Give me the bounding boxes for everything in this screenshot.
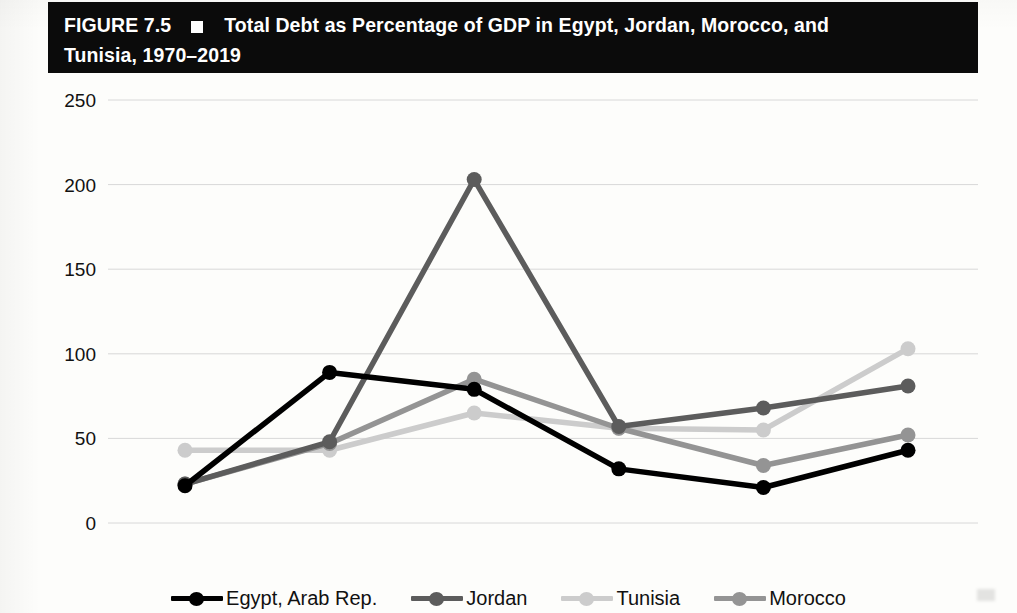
data-point-marker	[178, 443, 193, 458]
scan-smudge-artifact	[977, 589, 995, 601]
legend-item-label: Morocco	[769, 587, 846, 610]
y-axis-tick-label: 100	[64, 344, 96, 365]
chart-plot-area: 050100150200250 197019801990200020102019	[0, 73, 1017, 533]
data-series-group	[178, 172, 916, 495]
y-axis-tick-label: 0	[85, 513, 96, 533]
legend-item[interactable]: Jordan	[411, 587, 527, 610]
legend-item-label: Egypt, Arab Rep.	[226, 587, 377, 610]
data-point-marker	[467, 382, 482, 397]
legend-marker-dot	[579, 592, 594, 606]
legend-swatch-icon	[561, 590, 613, 606]
figure-title-line-2: Tunisia, 1970–2019	[64, 40, 964, 70]
legend-item-label: Jordan	[466, 587, 527, 610]
legend-marker-dot	[189, 592, 204, 606]
data-point-marker	[901, 378, 916, 393]
gridlines-group	[108, 100, 978, 523]
y-axis-tick-label: 150	[64, 259, 96, 280]
legend-item-label: Tunisia	[616, 587, 680, 610]
data-point-marker	[611, 461, 626, 476]
legend-item[interactable]: Egypt, Arab Rep.	[171, 587, 377, 610]
y-axis-tick-label: 250	[64, 90, 96, 111]
data-point-marker	[467, 172, 482, 187]
legend-item[interactable]: Tunisia	[561, 587, 680, 610]
figure-title-text-part-2: Tunisia, 1970–2019	[64, 44, 241, 66]
y-axis-tick-label: 200	[64, 175, 96, 196]
data-point-marker	[756, 400, 771, 415]
figure-number-label: FIGURE 7.5	[64, 14, 171, 36]
data-point-marker	[322, 365, 337, 380]
series-line-egypt-arab-rep	[185, 372, 908, 487]
line-chart-svg: 050100150200250 197019801990200020102019	[0, 73, 1017, 533]
legend-marker-dot	[732, 592, 747, 606]
white-square-bullet-icon	[191, 21, 203, 33]
chart-legend: Egypt, Arab Rep.JordanTunisiaMorocco	[0, 583, 1017, 613]
legend-swatch-icon	[714, 590, 766, 606]
y-axis-tick-labels: 050100150200250	[64, 90, 96, 533]
data-point-marker	[756, 422, 771, 437]
data-point-marker	[178, 478, 193, 493]
figure-title-bar: FIGURE 7.5 Total Debt as Percentage of G…	[48, 2, 978, 73]
data-point-marker	[901, 428, 916, 443]
data-point-marker	[901, 443, 916, 458]
data-point-marker	[467, 406, 482, 421]
data-point-marker	[756, 480, 771, 495]
legend-swatch-icon	[411, 590, 463, 606]
figure-title-line-1: FIGURE 7.5 Total Debt as Percentage of G…	[64, 10, 964, 40]
data-point-marker	[611, 419, 626, 434]
legend-marker-dot	[429, 592, 444, 606]
figure-title-text-part-1: Total Debt as Percentage of GDP in Egypt…	[224, 14, 829, 36]
legend-item[interactable]: Morocco	[714, 587, 846, 610]
data-point-marker	[756, 458, 771, 473]
y-axis-tick-label: 50	[75, 428, 96, 449]
data-point-marker	[322, 434, 337, 449]
data-point-marker	[901, 341, 916, 356]
legend-swatch-icon	[171, 590, 223, 606]
